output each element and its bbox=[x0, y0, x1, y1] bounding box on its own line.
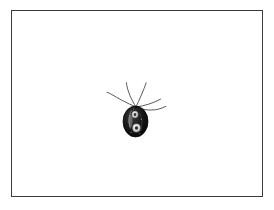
figure-root bbox=[0, 0, 274, 210]
granule-icon bbox=[141, 119, 142, 120]
flagellum-trailing-right-icon bbox=[136, 99, 161, 107]
nucleolus bbox=[135, 126, 138, 129]
anterior-apex-point bbox=[135, 106, 137, 108]
cell-body-group bbox=[123, 106, 148, 137]
flagellum-anterior-right-icon bbox=[136, 83, 146, 107]
illustration-canvas bbox=[0, 0, 274, 210]
inner-vacuole-highlight bbox=[134, 113, 137, 116]
cell-body bbox=[123, 106, 148, 137]
granule-icon bbox=[139, 133, 140, 134]
granule-icon bbox=[131, 132, 132, 133]
granule-icon bbox=[133, 108, 134, 109]
